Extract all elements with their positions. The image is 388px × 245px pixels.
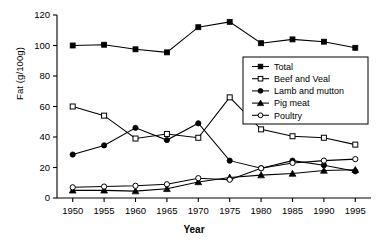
legend-label: Lamb and mutton — [274, 86, 344, 96]
y-tick-label: 100 — [34, 40, 50, 51]
data-point-marker — [353, 45, 358, 50]
y-axis-title: Fat (g/100g) — [14, 19, 25, 129]
data-point-marker — [102, 42, 107, 47]
data-point-marker — [102, 113, 107, 118]
y-tick-label: 40 — [39, 131, 50, 142]
x-tick-label: 1950 — [62, 205, 83, 216]
y-tick-label: 60 — [39, 101, 50, 112]
data-point-marker — [196, 25, 201, 30]
data-point-marker — [258, 76, 263, 81]
data-point-marker — [196, 135, 201, 140]
data-point-marker — [227, 158, 232, 163]
data-point-marker — [227, 19, 232, 24]
data-point-marker — [196, 176, 201, 181]
data-point-marker — [258, 88, 263, 93]
y-tick-label: 0 — [45, 192, 50, 203]
data-point-marker — [258, 113, 263, 118]
data-point-marker — [290, 160, 295, 165]
data-point-marker — [70, 43, 75, 48]
data-point-marker — [101, 184, 106, 189]
legend-label: Total — [274, 62, 293, 72]
x-tick-label: 1960 — [125, 205, 146, 216]
data-point-marker — [259, 127, 264, 132]
x-tick-label: 1975 — [219, 205, 240, 216]
data-point-marker — [227, 177, 232, 182]
data-point-marker — [259, 41, 264, 46]
data-point-marker — [227, 95, 232, 100]
x-tick-label: 1965 — [156, 205, 177, 216]
x-tick-label: 1970 — [188, 205, 209, 216]
y-tick-label: 20 — [39, 162, 50, 173]
data-point-marker — [353, 156, 358, 161]
legend-label: Poultry — [274, 111, 303, 121]
data-point-marker — [133, 183, 138, 188]
data-point-marker — [258, 166, 263, 171]
x-tick-label: 1955 — [94, 205, 115, 216]
data-point-marker — [133, 136, 138, 141]
data-point-marker — [196, 121, 201, 126]
legend-label: Beef and Veal — [274, 74, 330, 84]
data-point-marker — [133, 47, 138, 52]
data-point-marker — [321, 158, 326, 163]
y-tick-label: 80 — [39, 70, 50, 81]
data-point-marker — [258, 64, 263, 69]
data-point-marker — [70, 104, 75, 109]
x-axis-title: Year — [0, 224, 388, 235]
x-tick-label: 1990 — [313, 205, 334, 216]
legend-label: Pig meat — [274, 98, 310, 108]
x-tick-label: 1995 — [345, 205, 366, 216]
data-point-marker — [290, 134, 295, 139]
data-point-marker — [290, 37, 295, 42]
data-point-marker — [321, 135, 326, 140]
data-point-marker — [70, 152, 75, 157]
data-point-marker — [164, 182, 169, 187]
line-chart-plot: 020406080100120 195019551960196519701975… — [0, 0, 388, 245]
data-point-marker — [101, 143, 106, 148]
y-tick-label: 120 — [34, 9, 50, 20]
chart-legend: TotalBeef and VealLamb and muttonPig mea… — [243, 57, 368, 124]
data-point-marker — [353, 142, 358, 147]
data-point-marker — [164, 131, 169, 136]
data-point-marker — [133, 125, 138, 130]
data-point-marker — [164, 50, 169, 55]
x-tick-label: 1985 — [282, 205, 303, 216]
x-tick-label: 1980 — [251, 205, 272, 216]
data-point-marker — [70, 185, 75, 190]
data-point-marker — [321, 39, 326, 44]
chart-container: 020406080100120 195019551960196519701975… — [0, 0, 388, 245]
data-point-marker — [164, 137, 169, 142]
